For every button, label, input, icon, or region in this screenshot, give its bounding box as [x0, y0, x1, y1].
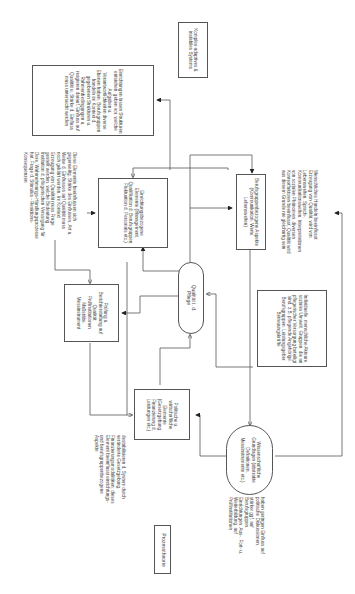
political-label: Politische u. wirtschaftliche Elemente (… — [146, 391, 178, 439]
system-type-box: Komplex-adaptives & instabiles Systems — [178, 22, 208, 78]
system-type-label: Komplex-adaptives & instabiles Systems — [188, 24, 199, 76]
profession-aspects-box: Berufsgruppenbezogene Aspekte (Kommunika… — [236, 174, 266, 250]
review-label: Prüfung u. Berichterstattung auf Qualitä… — [75, 287, 107, 339]
science-influence-annotation: haben geringen Einfluss auf politische D… — [194, 496, 298, 558]
institution-elements-box: Einrichtungsbezogene Elemente (Managemen… — [98, 178, 168, 248]
science-influence-text: haben geringen Einfluss auf politische D… — [227, 497, 265, 557]
diagram-title: Prozesstheorie — [160, 527, 165, 573]
profession-aspects-label: Berufsgruppenbezogene Aspekte (Kommunika… — [243, 177, 259, 247]
human-action-text: Menschliches Handeln beeinflusst Erzeugu… — [280, 170, 318, 256]
science-label: Wissenschaftliche Grundlagen (abstrakte … — [239, 431, 261, 489]
human-action-annotation: Menschliches Handeln beeinflusst Erzeugu… — [266, 168, 331, 258]
diagram-title-box: Prozesstheorie — [154, 525, 171, 574]
elements-influence-annotation: Diese Elemente beeinflussen sich gegense… — [15, 150, 85, 242]
individuals-box: Individuelle, menschliche Akteure, sozia… — [257, 290, 327, 367]
individuals-label: Individuelle, menschliche Akteure, sozia… — [276, 293, 308, 365]
review-box: Prüfung u. Berichterstattung auf Qualitä… — [64, 284, 119, 342]
institution-frame-text: Einrichtungen lassen Strukturen entstehe… — [63, 68, 122, 134]
quality-node: Qualität i. d. Pflege — [178, 262, 204, 334]
quality-label: Qualität i. d. Pflege — [186, 278, 197, 318]
science-node: Wissenschaftliche Grundlagen (abstrakte … — [226, 425, 273, 495]
political-box: Politische u. wirtschaftliche Elemente (… — [134, 389, 190, 440]
destabilize-annotation: destabilisieren d. System durch veränder… — [88, 434, 132, 508]
institution-frame-box: Einrichtungen lassen Strukturen entstehe… — [32, 65, 154, 136]
elements-influence-text: Diese Elemente beeinflussen sich gegense… — [23, 152, 77, 240]
destabilize-text: destabilisieren d. System durch veränder… — [94, 435, 126, 507]
institution-elements-label: Einrichtungsbezogene Elemente (Managemen… — [122, 181, 144, 245]
